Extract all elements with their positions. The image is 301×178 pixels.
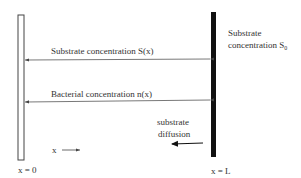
substrate-concentration-label: Substrate concentration S(x) — [51, 47, 153, 56]
diffusion-label-line1: substrate — [157, 118, 189, 127]
bacterial-concentration-arrow — [25, 100, 210, 102]
substrate-concentration-arrow — [25, 59, 210, 60]
substrate-diffusion-arrow — [172, 143, 203, 144]
bacterial-concentration-label: Bacterial concentration n(x) — [51, 90, 152, 99]
right-substrate-label-text: concentration S — [228, 40, 284, 50]
x-axis-label: x — [52, 146, 57, 155]
right-boundary-bar — [211, 12, 216, 157]
diagram: Substrate concentration S(x) Bacterial c… — [0, 0, 301, 178]
diffusion-label-line2: diffusion — [158, 130, 190, 139]
right-substrate-label-line1: Substrate — [228, 29, 262, 38]
left-boundary-bar — [18, 15, 24, 160]
right-boundary-label: x = L — [211, 167, 231, 176]
left-boundary-label: x = 0 — [18, 166, 37, 175]
right-substrate-label-line2: concentration S0 — [228, 41, 287, 51]
right-substrate-label-subscript: 0 — [284, 45, 287, 51]
